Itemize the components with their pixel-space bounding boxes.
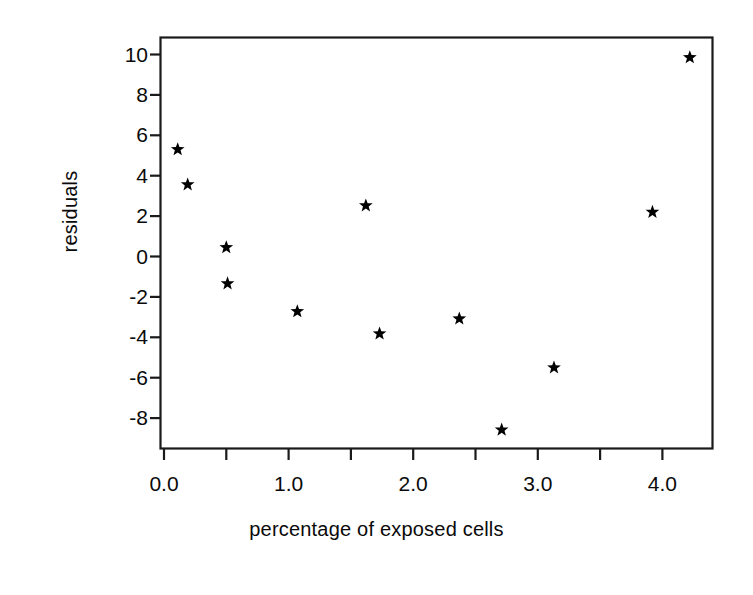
x-tick-label: 4.0	[632, 473, 692, 494]
x-tick-label: 3.0	[508, 473, 568, 494]
x-tick-label: 2.0	[383, 473, 443, 494]
y-axis-title: residuals	[59, 132, 82, 292]
x-axis-title: percentage of exposed cells	[0, 518, 753, 541]
x-tick-label: 1.0	[259, 473, 319, 494]
x-axis-tick-labels: 0.01.02.03.04.0	[0, 0, 753, 595]
x-tick-label: 0.0	[134, 473, 194, 494]
scatter-chart-figure: 1086420-2-4-6-8 0.01.02.03.04.0 residual…	[0, 0, 753, 595]
